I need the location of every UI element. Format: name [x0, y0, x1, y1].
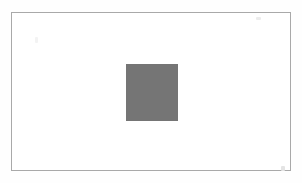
scan-speck-bottom-right — [281, 166, 285, 171]
figure-canvas — [0, 0, 302, 183]
figure-frame — [11, 12, 291, 171]
scan-speck-top-right — [256, 17, 261, 20]
gray-square-shape — [126, 64, 178, 121]
frame-interior — [12, 13, 290, 170]
scan-speck-left — [35, 37, 38, 43]
